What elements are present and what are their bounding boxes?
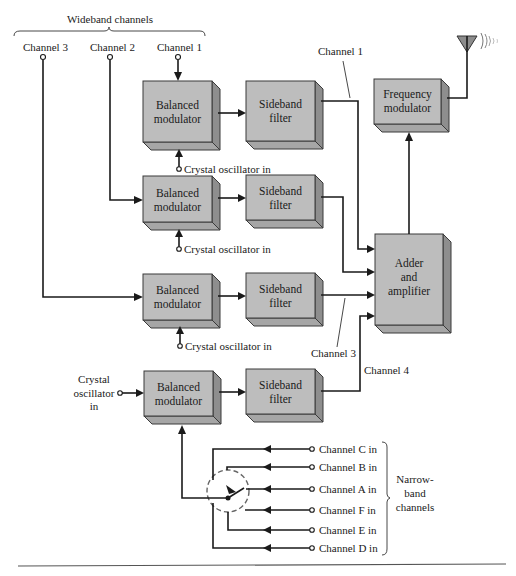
sideband-filter-2: Sideband filter: [246, 175, 323, 228]
narrowband-input-b: Channel B in: [319, 461, 378, 473]
svg-text:Sideband: Sideband: [259, 98, 302, 110]
channel-2-input-label: Channel 2: [90, 41, 135, 53]
svg-text:filter: filter: [269, 297, 292, 309]
crystal-oscillator-left-line3: in: [90, 400, 99, 412]
channel-1-input-label: Channel 1: [157, 41, 202, 53]
balanced-modulator-4: Balanced modulator: [144, 371, 221, 424]
narrowband-terminals: [310, 447, 315, 551]
svg-text:modulator: modulator: [154, 113, 201, 125]
channel-1-line-label: Channel 1: [318, 45, 363, 57]
narrowband-brace: [382, 442, 390, 555]
crystal-oscillator-in-3: Crystal oscillator in: [185, 340, 272, 352]
svg-text:Balanced: Balanced: [157, 381, 200, 393]
narrowband-label-line1: Narrow-: [396, 473, 434, 485]
crystal-oscillator-left-line1: Crystal: [78, 373, 110, 385]
wideband-channels-label: Wideband channels: [67, 13, 153, 25]
sideband-filter-1: Sideband filter: [246, 81, 323, 149]
balanced-modulator-1: Balanced modulator: [143, 81, 220, 150]
svg-text:modulator: modulator: [384, 102, 431, 114]
channel-3-input-label: Channel 3: [23, 41, 68, 53]
balanced-modulator-3: Balanced modulator: [143, 274, 220, 328]
svg-text:Balanced: Balanced: [156, 99, 199, 111]
frequency-modulator: Frequency modulator: [374, 79, 449, 132]
svg-text:Balanced: Balanced: [156, 187, 199, 199]
svg-text:and: and: [401, 271, 418, 283]
narrowband-label-line3: channels: [396, 501, 434, 513]
svg-text:modulator: modulator: [154, 298, 201, 310]
channel-3-line-label: Channel 3: [311, 347, 356, 359]
narrowband-input-f: Channel F in: [319, 504, 376, 516]
svg-text:Sideband: Sideband: [259, 379, 302, 391]
narrowband-arrows: [263, 445, 271, 552]
channel-4-line-label: Channel 4: [364, 364, 409, 376]
channel-3-terminal: [41, 55, 46, 60]
svg-text:filter: filter: [269, 112, 292, 124]
narrowband-input-d: Channel D in: [319, 542, 378, 554]
svg-text:filter: filter: [269, 199, 292, 211]
antenna-icon: [457, 33, 498, 52]
sideband-filter-3: Sideband filter: [246, 273, 323, 326]
narrowband-input-a: Channel A in: [319, 483, 377, 495]
narrowband-input-c: Channel C in: [319, 443, 378, 455]
svg-text:Sideband: Sideband: [259, 185, 302, 197]
svg-text:Frequency: Frequency: [383, 88, 432, 101]
svg-text:modulator: modulator: [155, 395, 202, 407]
svg-text:amplifier: amplifier: [388, 285, 430, 298]
bottom-rule: [18, 564, 506, 566]
svg-text:Balanced: Balanced: [156, 284, 199, 296]
narrowband-input-e: Channel E in: [319, 524, 377, 536]
crystal-oscillator-in-2: Crystal oscillator in: [184, 243, 271, 255]
crystal-oscillator-in-1: Crystal oscillator in: [184, 163, 271, 175]
balanced-modulator-2: Balanced modulator: [143, 176, 220, 230]
svg-text:filter: filter: [269, 393, 292, 405]
narrowband-label-line2: band: [404, 487, 426, 499]
ssb-multiplex-transmitter-diagram: Wideband channels Channel 3 Channel 2 Ch…: [0, 0, 516, 576]
sideband-filter-4: Sideband filter: [246, 369, 323, 422]
adder-and-amplifier: Adder and amplifier: [375, 234, 451, 333]
channel-1-terminal: [176, 55, 181, 60]
wideband-brace: [14, 27, 205, 36]
crystal-oscillator-left-line2: oscillator: [74, 387, 115, 399]
channel-2-terminal: [108, 55, 113, 60]
svg-text:modulator: modulator: [154, 201, 201, 213]
svg-text:Adder: Adder: [395, 257, 424, 269]
svg-text:Sideband: Sideband: [259, 283, 302, 295]
